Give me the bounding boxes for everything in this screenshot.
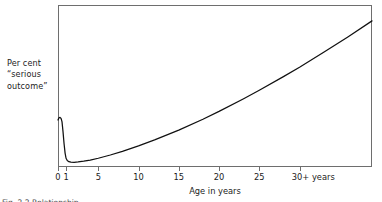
x-axis-label-text: Age in years xyxy=(189,186,241,196)
x-tick-mark-15 xyxy=(179,167,180,171)
x-tick-mark-5 xyxy=(98,167,99,171)
figure-caption: Fig. 2.2 Relationship xyxy=(2,198,382,202)
x-tick-label-0: 0 xyxy=(55,172,60,182)
x-tick-mark-30+-years xyxy=(300,167,301,171)
x-tick-label-5: 5 xyxy=(96,172,101,182)
x-axis-ticks: 0151015202530+ years xyxy=(0,0,382,202)
x-tick-mark-1 xyxy=(66,167,67,171)
x-tick-mark-10 xyxy=(139,167,140,171)
x-tick-label-1: 1 xyxy=(63,172,68,182)
x-axis-label: Age in years xyxy=(0,186,382,196)
x-tick-mark-25 xyxy=(259,167,260,171)
figure-container: Per cent “serious outcome” 0151015202530… xyxy=(0,0,382,202)
x-tick-label-30+-years: 30+ years xyxy=(292,172,335,182)
x-tick-mark-20 xyxy=(219,167,220,171)
x-tick-mark-0 xyxy=(58,167,59,171)
x-tick-label-10: 10 xyxy=(133,172,144,182)
x-tick-label-25: 25 xyxy=(254,172,265,182)
x-tick-label-20: 20 xyxy=(214,172,225,182)
x-tick-label-15: 15 xyxy=(174,172,185,182)
